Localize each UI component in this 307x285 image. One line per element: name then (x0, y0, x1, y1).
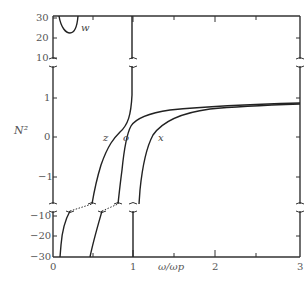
y-tick-label: −20 (30, 231, 51, 241)
y-tick-label: 1 (44, 93, 50, 103)
y-tick-label: 10 (36, 53, 49, 63)
x-tick-label: 0 (50, 262, 56, 272)
curve-x-mid (139, 104, 300, 204)
y-axis-label: N² (14, 125, 28, 136)
curve-w (59, 16, 78, 33)
y-tick-label: −30 (30, 252, 51, 262)
y-tick-label: 0 (44, 132, 50, 142)
x-ticks (93, 16, 256, 257)
y-tick-label: −1 (38, 172, 53, 182)
y-tick-label: 30 (36, 13, 49, 23)
curve-label-o: o (123, 133, 129, 143)
axis-break-marks (49, 58, 304, 213)
x-tick-label: 1 (130, 262, 136, 272)
curve-label-x: x (158, 133, 164, 143)
curve-o-bot (90, 211, 102, 257)
y-tick-label: 20 (36, 33, 49, 43)
dotted-connectors (70, 204, 118, 211)
x-tick-label: 2 (212, 262, 218, 272)
curve-z-bot (60, 211, 70, 257)
y-tick-label: −10 (30, 211, 51, 221)
x-tick-label: 3 (297, 262, 303, 272)
curve-label-z: z (103, 133, 108, 143)
curve-label-w: w (81, 23, 90, 33)
x-axis-label: ω/ωp (158, 262, 184, 272)
curve-o-mid (118, 103, 300, 204)
